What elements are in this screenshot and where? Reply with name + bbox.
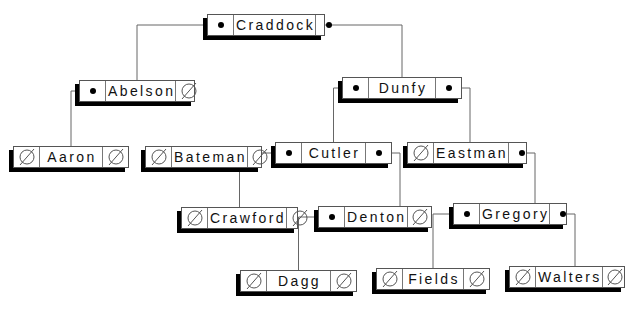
filled-dot-icon [329,214,335,220]
node-label: Crawford [208,208,286,228]
right-pointer-cell [407,207,433,227]
tree-node-eastman: Eastman [407,142,527,164]
left-pointer-cell [80,81,106,101]
null-pointer-icon [606,268,624,286]
filled-dot-icon [376,150,382,156]
right-pointer-cell [102,147,128,167]
left-pointer-cell [276,143,302,163]
tree-node-craddock: Craddock [207,14,325,36]
filled-dot-icon [353,85,359,91]
right-pointer-cell [330,271,356,291]
right-pointer-cell [286,208,312,228]
left-pointer-cell [241,271,267,291]
tree-node-abelson: Abelson [79,80,195,102]
right-pointer-cell [175,81,201,101]
null-pointer-icon [411,208,429,226]
null-pointer-icon [180,82,198,100]
tree-node-gregory: Gregory [453,203,567,225]
node-label: Dunfy [369,78,435,98]
node-label: Aaron [40,147,102,167]
right-pointer-cell [315,15,341,35]
filled-dot-icon [218,22,224,28]
tree-node-cutler: Cutler [275,142,392,164]
null-pointer-icon [186,209,204,227]
tree-node-crawford: Crawford [181,207,298,229]
node-label: Denton [345,207,407,227]
left-pointer-cell [319,207,345,227]
right-pointer-cell [463,269,489,289]
tree-node-aaron: Aaron [13,146,129,168]
filled-dot-icon [326,22,332,28]
node-label: Craddock [234,15,315,35]
null-pointer-icon [335,272,353,290]
null-pointer-icon [291,209,309,227]
node-label: Cutler [302,143,365,163]
left-pointer-cell [14,147,40,167]
null-pointer-icon [514,268,532,286]
left-pointer-cell [408,143,434,163]
node-label: Gregory [480,204,549,224]
null-pointer-icon [18,148,36,166]
tree-node-bateman: Bateman [145,146,262,168]
node-label: Walters [536,267,602,287]
null-pointer-icon [251,148,269,166]
right-pointer-cell [247,147,273,167]
tree-node-denton: Denton [318,206,432,228]
filled-dot-icon [464,211,470,217]
null-pointer-icon [381,270,399,288]
left-pointer-cell [343,78,369,98]
left-pointer-cell [454,204,480,224]
filled-dot-icon [90,88,96,94]
right-pointer-cell [508,143,534,163]
tree-node-walters: Walters [509,266,625,288]
filled-dot-icon [560,211,566,217]
tree-node-dunfy: Dunfy [342,77,462,99]
filled-dot-icon [286,150,292,156]
null-pointer-icon [245,272,263,290]
left-pointer-cell [377,269,403,289]
node-label: Bateman [172,147,247,167]
node-label: Abelson [106,81,175,101]
right-pointer-cell [365,143,391,163]
tree-node-dagg: Dagg [240,270,357,292]
node-label: Dagg [267,271,330,291]
binary-tree-diagram: CraddockAbelsonDunfyAaronBatemanCutlerEa… [0,0,643,310]
left-pointer-cell [208,15,234,35]
node-label: Eastman [434,143,508,163]
null-pointer-icon [107,148,125,166]
tree-node-fields: Fields [376,268,490,290]
right-pointer-cell [435,78,461,98]
left-pointer-cell [510,267,536,287]
right-pointer-cell [602,267,628,287]
left-pointer-cell [146,147,172,167]
left-pointer-cell [182,208,208,228]
filled-dot-icon [519,150,525,156]
right-pointer-cell [549,204,575,224]
null-pointer-icon [412,144,430,162]
null-pointer-icon [150,148,168,166]
node-label: Fields [403,269,463,289]
null-pointer-icon [468,270,486,288]
filled-dot-icon [446,85,452,91]
